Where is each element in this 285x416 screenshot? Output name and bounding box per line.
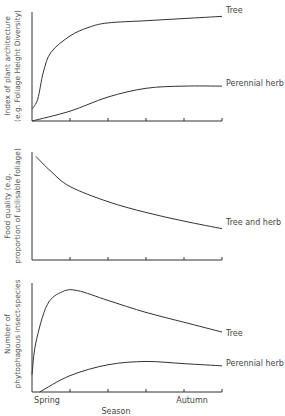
y-axis-label-line1: Food quality (e.g.: [3, 173, 12, 238]
y-axis-label-line2: phytophagous insect-species: [13, 279, 22, 388]
x-axis-label: Season: [101, 407, 130, 416]
x-tick-label-autumn: Autumn: [176, 396, 208, 405]
series-line-perennial-herb: [32, 86, 222, 121]
curves: [32, 290, 222, 392]
y-axis-label-line2: (e.g. Foliage Height Diversity): [13, 10, 22, 122]
y-axis-label-line1: Number of: [3, 314, 12, 354]
series-label-tree: Tree: [225, 329, 243, 338]
panel-food-quality: Food quality (e.g. proportion of utilisa…: [3, 148, 281, 264]
panel-plant-architecture: Index of plant architecture (e.g. Foliag…: [3, 6, 284, 122]
series-line-tree-and-herb: [36, 156, 222, 228]
chart-figure: Index of plant architecture (e.g. Foliag…: [0, 0, 285, 416]
x-tick-label-spring: Spring: [34, 396, 60, 405]
y-axis-label-line2: proportion of utilisable foliage): [13, 148, 22, 264]
series-line-tree: [32, 16, 222, 109]
series-label-perennial-herb: Perennial herb: [226, 359, 284, 368]
curves: [36, 156, 222, 228]
series-line-perennial-herb: [40, 361, 222, 392]
series-label-perennial-herb: Perennial herb: [226, 79, 284, 88]
panel-insect-species: Number of phytophagous insect-species Tr…: [3, 279, 284, 416]
series-label-tree-and-herb: Tree and herb: [225, 218, 281, 227]
curves: [32, 16, 222, 121]
y-axis-label-line1: Index of plant architecture: [3, 16, 12, 116]
series-label-tree: Tree: [225, 6, 243, 15]
